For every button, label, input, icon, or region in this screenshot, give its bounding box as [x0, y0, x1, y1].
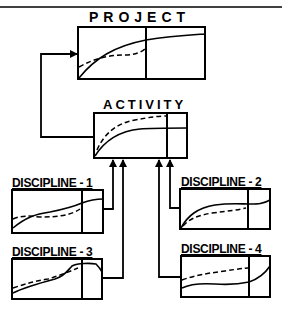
discipline3-label: DISCIPLINE - 3 [12, 246, 92, 258]
project-box [78, 27, 205, 79]
arrow-discipline1-to-activity [103, 160, 113, 209]
discipline2-box [180, 189, 270, 229]
project-label: PROJECT [89, 10, 190, 24]
arrow-activity-to-project [41, 54, 94, 137]
project-solid-curve [79, 34, 205, 78]
discipline4-box [181, 256, 270, 297]
activity-box [94, 113, 187, 158]
discipline3-box [12, 259, 102, 299]
diagram-canvas [0, 0, 282, 309]
arrow-discipline2-to-activity [170, 160, 180, 208]
discipline2-label: DISCIPLINE - 2 [181, 176, 261, 188]
activity-dashed-curve [97, 116, 167, 150]
discipline4-label: DISCIPLINE - 4 [181, 243, 261, 255]
discipline1-box [12, 190, 103, 233]
discipline1-label: DISCIPLINE - 1 [12, 177, 92, 189]
activity-label: ACTIVITY [103, 98, 186, 111]
activity-solid-curve [95, 128, 187, 156]
